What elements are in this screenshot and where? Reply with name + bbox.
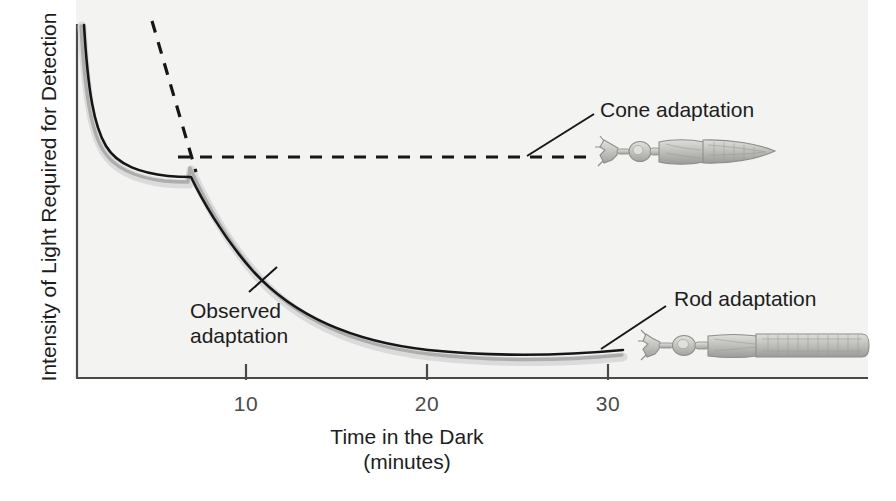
x-axis-title-line2: (minutes) [247, 450, 567, 475]
observed-curve-shadow [81, 26, 623, 361]
rod-photoreceptor-icon [638, 330, 869, 360]
x-tick-label-20: 20 [397, 392, 457, 416]
cone-adaptation-label: Cone adaptation [600, 98, 754, 123]
x-axis-title: Time in the Dark (minutes) [247, 425, 567, 475]
dark-adaptation-figure: 10 20 30 Time in the Dark (minutes) Inte… [0, 0, 896, 501]
observed-adaptation-curve [84, 25, 623, 355]
observed-adaptation-label: Observed adaptation [190, 299, 288, 349]
x-tick-label-10: 10 [216, 392, 276, 416]
cone-photoreceptor-icon [595, 136, 775, 166]
rod-adaptation-label: Rod adaptation [674, 287, 816, 312]
rod-adaptation-dashed-line [152, 21, 196, 172]
x-tick-label-30: 30 [578, 392, 638, 416]
cone-annotation-leader-line [527, 114, 594, 156]
x-axis-title-line1: Time in the Dark [247, 425, 567, 450]
y-axis-title: Intensity of Light Required for Detectio… [37, 2, 61, 392]
